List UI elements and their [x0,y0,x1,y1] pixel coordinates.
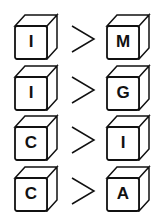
right-cube: M [105,12,151,60]
row-3: C I [0,113,160,163]
row-2: I G [0,63,160,113]
cube-letter: C [15,127,47,159]
cube-letter: C [15,178,47,210]
greater-than-symbol [70,75,96,105]
greater-than-symbol [70,125,96,155]
left-cube: I [13,63,59,111]
cube-letter: M [107,26,139,58]
cube-letter: I [107,127,139,159]
right-cube: A [105,164,151,212]
cube-letter: I [15,26,47,58]
cube-letter: A [107,178,139,210]
right-cube: I [105,113,151,161]
row-1: I M [0,12,160,62]
left-cube: I [13,12,59,60]
left-cube: C [13,113,59,161]
greater-than-symbol [70,176,96,206]
cube-letter: I [15,77,47,109]
left-cube: C [13,164,59,212]
greater-than-symbol [70,24,96,54]
cube-letter: G [107,77,139,109]
right-cube: G [105,63,151,111]
row-4: C A [0,164,160,214]
